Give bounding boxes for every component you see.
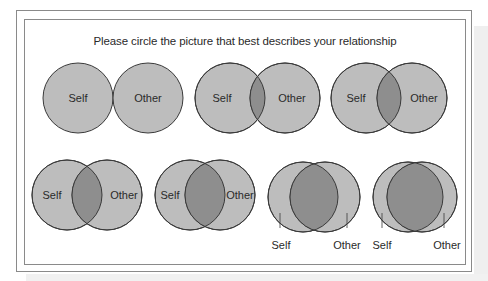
self-label: Self xyxy=(373,239,393,251)
venn-option-2[interactable]: Self Other xyxy=(195,63,320,133)
self-label: Self xyxy=(161,189,181,201)
venn-option-6[interactable]: Self Other xyxy=(268,162,361,251)
other-label: Other xyxy=(226,189,254,201)
other-label: Other xyxy=(110,189,138,201)
other-label: Other xyxy=(333,239,361,251)
venn-option-4[interactable]: Self Other xyxy=(32,160,142,230)
venn-option-5[interactable]: Self Other xyxy=(155,160,255,230)
self-label: Self xyxy=(213,92,233,104)
venn-option-3[interactable]: Self Other xyxy=(331,63,447,133)
other-label: Other xyxy=(134,92,162,104)
other-label: Other xyxy=(433,239,461,251)
venn-diagrams: Self Other Self Other Self Other Self Ot… xyxy=(0,0,488,281)
other-label: Other xyxy=(410,92,438,104)
venn-option-1[interactable]: Self Other xyxy=(43,63,183,133)
venn-option-7[interactable]: Self Other xyxy=(373,162,462,251)
self-label: Self xyxy=(347,92,367,104)
other-label: Other xyxy=(278,92,306,104)
self-label: Self xyxy=(272,239,292,251)
self-label: Self xyxy=(69,92,89,104)
self-label: Self xyxy=(43,189,63,201)
